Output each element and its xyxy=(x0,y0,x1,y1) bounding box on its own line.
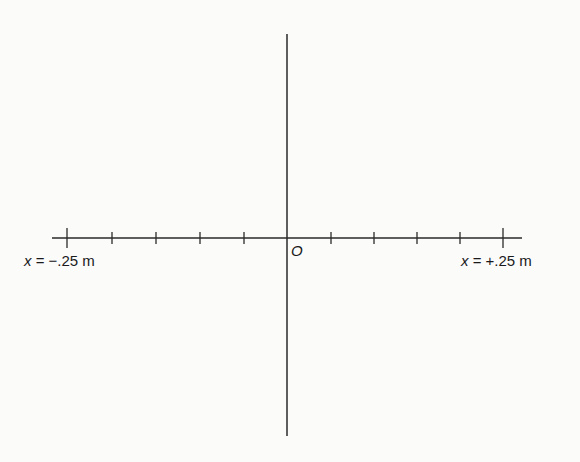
origin-label: O xyxy=(291,242,303,259)
right-end-value: = +.25 m xyxy=(469,252,532,269)
left-end-value: = −.25 m xyxy=(32,252,95,269)
axes-diagram xyxy=(0,0,580,462)
right-end-label: x = +.25 m xyxy=(461,252,532,269)
left-end-var: x xyxy=(24,252,32,269)
right-end-var: x xyxy=(461,252,469,269)
left-end-label: x = −.25 m xyxy=(24,252,95,269)
